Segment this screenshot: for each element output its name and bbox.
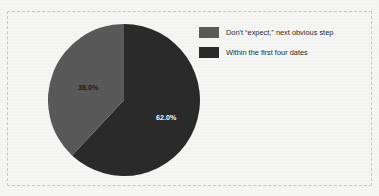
legend-swatch-icon-gray [199,27,219,38]
legend-item-gray[interactable]: Don't “expect,” next obvious step [199,27,359,38]
chart-legend: Don't “expect,” next obvious step Within… [199,27,359,67]
chart-page: 38.0% 62.0% Don't “expect,” next obvious… [0,0,379,196]
pie-slice-label-gray: 38.0% [78,83,99,92]
pie-chart: 38.0% 62.0% [48,24,200,176]
legend-label-dark: Within the first four dates [226,47,308,58]
legend-label-gray: Don't “expect,” next obvious step [226,27,333,38]
pie-slice-label-dark: 62.0% [156,113,177,122]
legend-swatch-icon-dark [199,47,219,58]
pie-chart-svg: 38.0% 62.0% [48,24,200,176]
legend-item-dark[interactable]: Within the first four dates [199,47,359,58]
